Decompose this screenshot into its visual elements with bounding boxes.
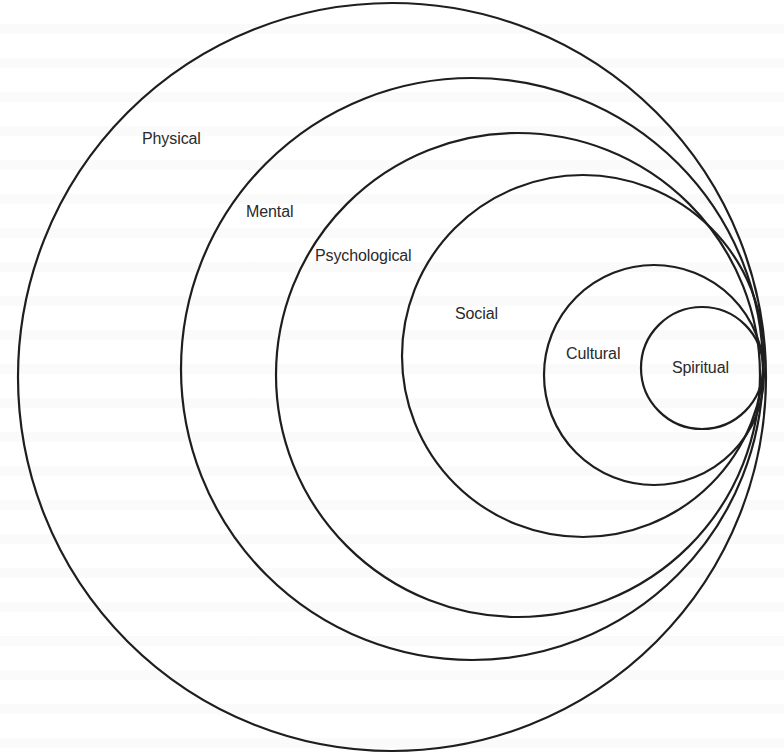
label-cultural: Cultural [566, 346, 620, 362]
nested-circles-diagram: Physical Mental Psychological Social Cul… [0, 0, 784, 756]
circle-physical [18, 3, 766, 751]
circle-cultural [544, 265, 764, 485]
label-mental: Mental [246, 204, 293, 220]
label-psychological: Psychological [315, 248, 412, 264]
label-spiritual: Spiritual [672, 360, 729, 376]
circles-layer [0, 0, 784, 756]
label-social: Social [455, 306, 498, 322]
label-physical: Physical [142, 131, 201, 147]
